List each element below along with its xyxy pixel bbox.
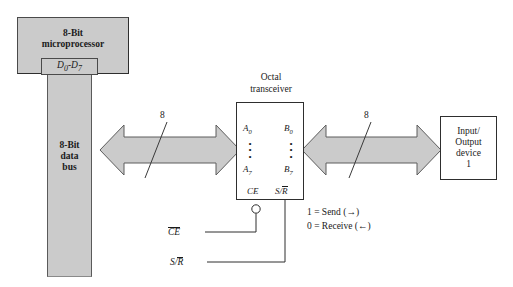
ce-input-label: CE [168, 227, 180, 238]
pin-a7-label: A7 [243, 164, 252, 176]
diagram-canvas: 8-Bit microprocessor D0-D7 8-Bit data bu… [0, 0, 513, 287]
direction-legend: 1 = Send (→) 0 = Receive (←) [307, 206, 371, 234]
pin-b7-label: B7 [284, 164, 293, 176]
right-bus-width-label: 8 [364, 110, 369, 120]
pin-a0-label: A0 [243, 123, 252, 135]
left-bus-width-label: 8 [160, 110, 165, 120]
ce-wire [205, 214, 256, 233]
control-wires-layer [0, 0, 513, 287]
sr-input-label: S/R [170, 257, 183, 268]
pin-b-ellipsis: • • • [286, 141, 296, 160]
sr-wire [207, 200, 285, 262]
pin-a-ellipsis: • • • [245, 141, 255, 160]
legend-send: 1 = Send (→) [307, 206, 371, 220]
transceiver-sr-pin-label: S/R [275, 186, 288, 196]
pin-b0-label: B0 [284, 123, 293, 135]
transceiver-ce-pin-label: CE [247, 186, 259, 196]
legend-receive: 0 = Receive (←) [307, 220, 371, 234]
ce-inversion-bubble-icon [252, 205, 260, 213]
